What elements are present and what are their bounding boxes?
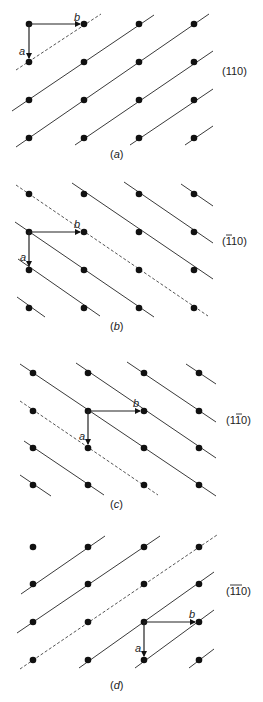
panel-d: b a (110) (d) [17,535,251,691]
vector-b-label: b [74,11,80,23]
lattice-plane [127,362,216,422]
atom [191,229,198,236]
miller-index-label: (110) [226,414,251,426]
atom [26,135,33,142]
atom [196,370,203,377]
lattice-planes [12,14,213,147]
atom [30,619,37,626]
atom [85,657,92,664]
lattice-plane [185,126,213,145]
atom [136,135,143,142]
atom [85,370,92,377]
atom [26,191,33,198]
atom [191,135,198,142]
atom [141,445,148,452]
atom [136,191,143,198]
panel-caption: (c) [110,498,123,510]
panel-b: b a (110) (b) [15,182,247,332]
panel-caption: (a) [110,148,123,160]
atom [136,59,143,66]
atom [196,482,203,489]
atom [30,445,37,452]
atom [141,581,148,588]
atom [191,21,198,28]
lattice-plane [16,14,209,147]
panel-c: b a (110) (c) [20,362,251,510]
atom [81,267,88,274]
atom [26,305,33,312]
atom [141,482,148,489]
lattice-plane [130,89,213,145]
atom [30,408,37,415]
atom [85,445,92,452]
lattice-planes [20,362,216,496]
panel-a: b a (110) (a) [12,11,247,160]
atom [85,544,92,551]
atom [81,59,88,66]
atom [141,657,148,664]
vector-b-label: b [133,397,139,409]
vector-a-label: a [19,45,25,57]
vector-b-label: b [189,608,195,620]
panel-caption: (b) [110,320,123,332]
atom [136,97,143,104]
atom [26,59,33,66]
reference-plane-dashed [16,185,208,316]
vector-a-label: a [20,251,26,263]
atom [85,581,92,588]
atom [85,482,92,489]
atom [26,97,33,104]
atom [81,97,88,104]
atom [191,267,198,274]
atom [191,59,198,66]
atom [136,305,143,312]
atom [30,657,37,664]
atom [81,21,88,28]
reference-plane-dashed [20,535,217,669]
atom [191,97,198,104]
atom [196,581,203,588]
miller-index-label: (110) [226,585,251,597]
atom [26,267,33,274]
lattice-planes [17,535,217,669]
lattice-plane [20,364,216,496]
atom [196,619,203,626]
atom [85,619,92,626]
atom [136,229,143,236]
lattice-planes-figure: b a (110) (a) [0,0,263,702]
atom [141,408,148,415]
atom [30,370,37,377]
atom [196,657,203,664]
atom [141,370,148,377]
vector-a-label: a [79,430,85,442]
atom [81,191,88,198]
miller-index-label: (110) [222,235,247,247]
atom [30,482,37,489]
atom [81,229,88,236]
miller-index-label: (110) [222,65,247,77]
vector-b-label: b [74,218,80,230]
atom [81,305,88,312]
atom [191,305,198,312]
atom [196,408,203,415]
atom [136,21,143,28]
atom [136,267,143,274]
atom [30,581,37,588]
lattice-planes [15,182,213,317]
vector-a-label: a [135,642,141,654]
atom [191,191,198,198]
atom [196,544,203,551]
atom [30,544,37,551]
atom [81,135,88,142]
atom [141,544,148,551]
panel-caption: (d) [110,679,123,691]
atom [196,445,203,452]
